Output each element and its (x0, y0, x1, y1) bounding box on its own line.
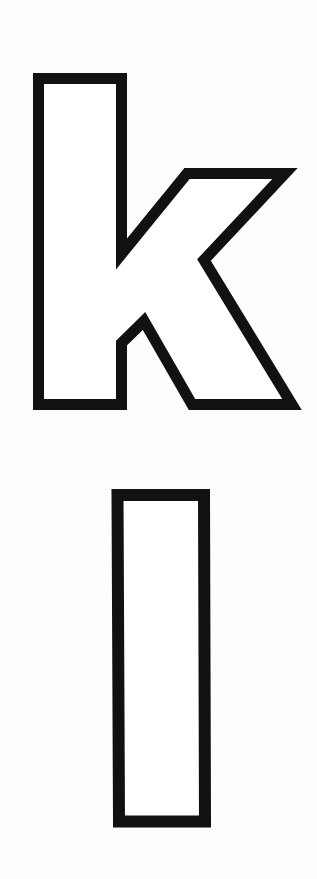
letter-outline-worksheet (0, 0, 317, 879)
letter-l-outline (118, 495, 206, 822)
letter-k-outline (39, 79, 293, 405)
letters-svg (0, 0, 317, 879)
